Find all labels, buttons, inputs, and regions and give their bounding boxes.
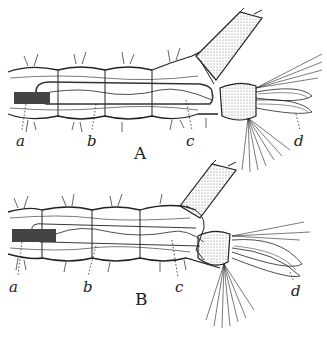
figure-label-b: B — [135, 291, 148, 308]
illustration — [0, 0, 327, 338]
larva-figure-b — [8, 160, 310, 328]
callout-c-fig-a: c — [186, 134, 194, 149]
figure-label-a: A — [134, 145, 146, 162]
callout-a-fig-a: a — [16, 134, 25, 149]
callout-a-fig-b: a — [9, 280, 18, 295]
callout-d-fig-a: d — [294, 134, 304, 149]
callout-b-fig-b: b — [83, 280, 93, 295]
larva-figure-a — [8, 8, 322, 172]
callout-c-fig-b: c — [175, 280, 183, 295]
callout-d-fig-b: d — [291, 284, 301, 299]
callout-b-fig-a: b — [87, 134, 97, 149]
